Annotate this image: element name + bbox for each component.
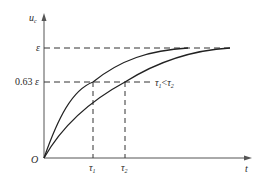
y-axis-arrow-icon [42,13,47,21]
y-axis-label: uc [29,13,37,24]
sixty-three-symbol: ε [35,76,39,87]
y-axis-label-sub: c [34,18,37,24]
origin-label: O [31,155,38,165]
sixty-three-epsilon-label: 0.63 ε [15,77,39,87]
rc-charging-diagram: uc ε 0.63 ε O τ1 τ2 t τ1<τ2 [0,0,259,178]
annotation-tau2-sub: 2 [171,83,174,89]
x-axis-arrow-icon [244,156,252,161]
epsilon-label: ε [36,43,40,53]
tau1-sub: 1 [93,168,96,174]
tau1-label: τ1 [89,163,96,174]
tau2-sub: 2 [125,168,128,174]
tau-comparison-annotation: τ1<τ2 [155,78,174,89]
sixty-three-number: 0.63 [15,76,33,87]
diagram-canvas [0,0,259,178]
curve-tau1 [44,48,188,158]
x-axis-label: t [245,164,248,174]
curve-tau2 [44,48,230,158]
tau2-label: τ2 [121,163,128,174]
